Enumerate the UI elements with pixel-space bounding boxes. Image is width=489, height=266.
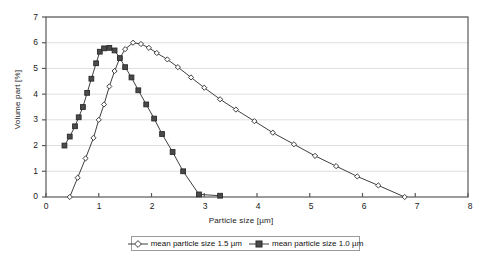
y-tick-label: 3 bbox=[22, 114, 38, 124]
plot-area bbox=[0, 0, 489, 266]
x-tick-label: 3 bbox=[197, 201, 213, 211]
legend: mean particle size 1.5 µm mean particle … bbox=[131, 236, 360, 251]
legend-item-series-2: mean particle size 1.0 µm bbox=[249, 239, 363, 249]
y-tick-label: 7 bbox=[22, 12, 38, 22]
gridlines bbox=[46, 17, 468, 171]
filled-square-marker-icon bbox=[249, 239, 269, 249]
legend-label: mean particle size 1.5 µm bbox=[151, 239, 242, 248]
x-tick-label: 1 bbox=[91, 201, 107, 211]
plot-frame bbox=[46, 17, 468, 197]
x-tick-label: 5 bbox=[303, 201, 319, 211]
y-tick-label: 5 bbox=[22, 63, 38, 73]
legend-label: mean particle size 1.0 µm bbox=[272, 239, 363, 248]
x-tick-label: 8 bbox=[462, 201, 478, 211]
y-tick-label: 2 bbox=[22, 140, 38, 150]
x-axis-title: Particle size [µm] bbox=[186, 216, 296, 225]
x-tick-label: 2 bbox=[144, 201, 160, 211]
open-diamond-marker-icon bbox=[128, 239, 148, 249]
x-tick-label: 0 bbox=[38, 201, 54, 211]
x-tick-label: 7 bbox=[409, 201, 425, 211]
legend-item-series-1: mean particle size 1.5 µm bbox=[128, 239, 242, 249]
x-tick-label: 6 bbox=[356, 201, 372, 211]
x-tick-label: 4 bbox=[250, 201, 266, 211]
particle-size-distribution-chart: Volume part [%] Particle size [µm] 7 6 5… bbox=[0, 0, 489, 266]
y-tick-label: 0 bbox=[22, 191, 38, 201]
axis-ticks bbox=[42, 17, 468, 197]
y-axis-title: Volume part [%] bbox=[13, 45, 22, 155]
y-tick-label: 6 bbox=[22, 37, 38, 47]
y-tick-label: 4 bbox=[22, 89, 38, 99]
y-tick-label: 1 bbox=[22, 166, 38, 176]
